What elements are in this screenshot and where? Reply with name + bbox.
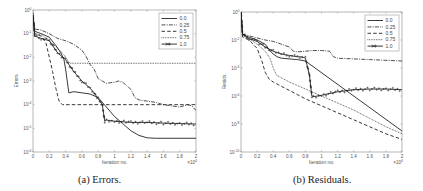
legend-entry-label: 1.0 xyxy=(386,43,393,49)
x-multiplier: ×104 xyxy=(393,159,403,165)
x-tick-label: 1 xyxy=(320,154,323,159)
legend: 0.00.250.50.751.0 xyxy=(365,15,399,51)
legend-entry-label: 0.0 xyxy=(386,17,393,23)
legend-entry-label: 0.5 xyxy=(386,30,393,36)
y-tick-label: 10-4 xyxy=(231,65,239,71)
residuals-chart: 00.20.40.60.811.21.41.61.82×104Iteration… xyxy=(211,0,423,191)
y-tick-label: 10-5 xyxy=(23,125,31,131)
y-tick-label: 10-2 xyxy=(231,37,239,43)
y-tick-label: 100 xyxy=(232,9,239,15)
y-tick-label: 10-3 xyxy=(23,78,31,84)
y-tick-label: 10-10 xyxy=(229,149,239,155)
x-tick-label: 1.4 xyxy=(144,154,151,159)
x-tick-label: 1.8 xyxy=(177,154,184,159)
x-tick-label: 1.6 xyxy=(367,154,374,159)
subfigure-errors: 00.20.40.60.811.21.41.61.82×104Iteration… xyxy=(0,0,211,191)
legend-entry-label: 0.5 xyxy=(180,28,187,34)
x-tick-label: 0.4 xyxy=(62,154,69,159)
x-tick-label: 1 xyxy=(113,154,116,159)
x-tick-label: 1.2 xyxy=(128,154,135,159)
y-tick-label: 100 xyxy=(24,7,31,13)
legend-entry-label: 0.0 xyxy=(180,15,187,21)
legend-entry-label: 0.25 xyxy=(180,22,190,28)
x-tick-label: 1.2 xyxy=(334,154,341,159)
x-tick-label: 0.2 xyxy=(254,154,261,159)
subfigure-residuals: 00.20.40.60.811.21.41.61.82×104Iteration… xyxy=(211,0,423,191)
x-tick-label: 0 xyxy=(32,154,35,159)
caption-errors: (a) Errors. xyxy=(78,174,121,185)
x-tick-label: 0.8 xyxy=(302,154,309,159)
legend-entry-label: 1.0 xyxy=(180,41,187,47)
x-axis-label: Iteration no. xyxy=(102,160,127,165)
x-multiplier: ×104 xyxy=(187,159,197,165)
x-tick-label: 1.8 xyxy=(383,154,390,159)
legend-entry-label: 0.75 xyxy=(180,34,190,40)
x-tick-label: 1.4 xyxy=(351,154,358,159)
y-axis-label: Errors xyxy=(14,74,19,88)
x-tick-label: 0 xyxy=(240,154,243,159)
x-tick-label: 0.4 xyxy=(270,154,277,159)
y-tick-label: 10-8 xyxy=(231,121,239,127)
y-tick-label: 10-6 xyxy=(23,149,31,155)
x-tick-label: 1.6 xyxy=(160,154,167,159)
y-tick-label: 10-4 xyxy=(23,101,31,107)
legend: 0.00.250.50.751.0 xyxy=(159,13,193,49)
x-tick-label: 0.6 xyxy=(79,154,86,159)
legend-entry-label: 0.75 xyxy=(386,36,396,42)
x-tick-label: 0.6 xyxy=(286,154,293,159)
y-tick-label: 10-2 xyxy=(23,54,31,60)
x-tick-label: 0.2 xyxy=(46,154,53,159)
y-axis-label: Resids xyxy=(222,74,227,89)
y-tick-label: 10-6 xyxy=(231,93,239,99)
legend-entry-label: 0.25 xyxy=(386,24,396,30)
x-tick-label: 0.8 xyxy=(95,154,102,159)
x-axis-label: Iteration no. xyxy=(309,160,334,165)
errors-chart: 00.20.40.60.811.21.41.61.82×104Iteration… xyxy=(0,0,211,191)
y-tick-label: 10-1 xyxy=(23,30,31,36)
caption-residuals: (b) Residuals. xyxy=(293,174,351,185)
